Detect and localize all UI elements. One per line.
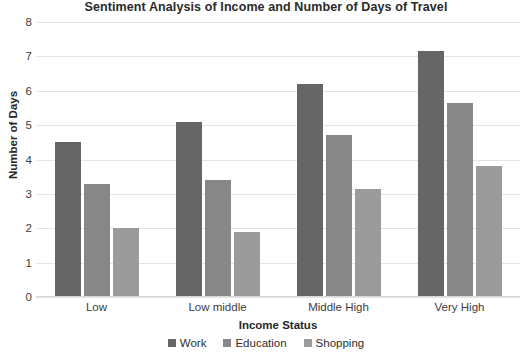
legend-label: Work: [180, 337, 207, 349]
y-axis-title: Number of Days: [7, 75, 19, 195]
legend-item[interactable]: Work: [168, 337, 207, 349]
bar[interactable]: [205, 180, 231, 297]
legend-item[interactable]: Education: [223, 337, 286, 349]
x-axis-tick-label: Middle High: [308, 301, 369, 313]
y-axis-tick-label: 0: [2, 291, 32, 303]
legend-swatch-icon: [223, 339, 231, 347]
bar[interactable]: [418, 51, 444, 297]
bar[interactable]: [476, 166, 502, 297]
bar-group: [278, 22, 399, 297]
legend-label: Shopping: [316, 337, 365, 349]
bar[interactable]: [447, 103, 473, 297]
y-axis-tick-label: 1: [2, 257, 32, 269]
bar-group: [157, 22, 278, 297]
bar[interactable]: [176, 122, 202, 297]
x-axis-tick-label: Low middle: [188, 301, 246, 313]
gridline: [36, 297, 520, 298]
x-axis-baseline: [36, 296, 520, 297]
legend-item[interactable]: Shopping: [304, 337, 365, 349]
x-axis-tick-label: Very High: [435, 301, 485, 313]
legend-label: Education: [235, 337, 286, 349]
chart-title: Sentiment Analysis of Income and Number …: [0, 0, 532, 15]
x-axis-title: Income Status: [36, 319, 520, 331]
legend: WorkEducationShopping: [0, 337, 532, 349]
bar-group: [36, 22, 157, 297]
bar[interactable]: [113, 228, 139, 297]
bar[interactable]: [84, 184, 110, 297]
bar[interactable]: [355, 189, 381, 297]
y-axis-tick-label: 8: [2, 16, 32, 28]
x-axis-tick-labels: LowLow middleMiddle HighVery High: [36, 301, 520, 317]
y-axis-tick-label: 2: [2, 222, 32, 234]
bar[interactable]: [326, 135, 352, 297]
bar-group: [399, 22, 520, 297]
legend-swatch-icon: [304, 339, 312, 347]
x-axis-tick-label: Low: [86, 301, 107, 313]
bar[interactable]: [234, 232, 260, 297]
plot-area: [36, 22, 520, 297]
y-axis-tick-label: 7: [2, 50, 32, 62]
bar[interactable]: [297, 84, 323, 297]
bar-chart: Sentiment Analysis of Income and Number …: [0, 0, 532, 353]
legend-swatch-icon: [168, 339, 176, 347]
bar[interactable]: [55, 142, 81, 297]
